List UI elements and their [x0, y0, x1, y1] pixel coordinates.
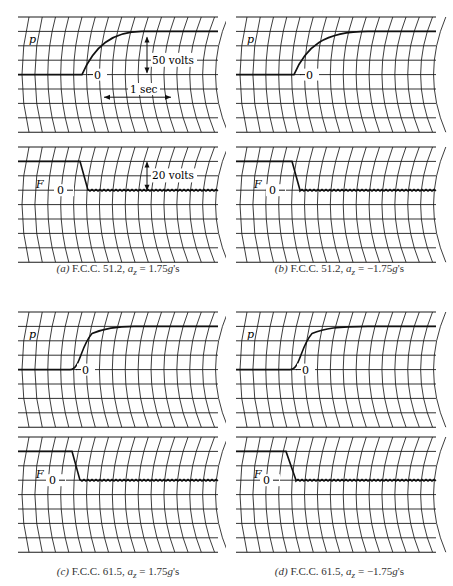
- panel-b: p0 F0 (b) F.C.C. 51.2, az = −1.75g's: [226, 0, 453, 290]
- panel-a-p-graph: p050 volts1 sec: [0, 8, 226, 148]
- scale-label-20-volts: 20 volts: [152, 169, 194, 181]
- scale-label-50-volts: 50 volts: [152, 54, 194, 66]
- caption-value: = −1.75: [355, 262, 392, 274]
- panel-b-p-graph: p0: [226, 8, 453, 148]
- panel-a: p050 volts1 sec F020 volts (a) F.C.C. 51…: [0, 0, 226, 290]
- caption-letter: (b): [275, 262, 288, 274]
- caption-unit: 's: [173, 262, 179, 274]
- time-scale-label: 1 sec: [130, 83, 158, 95]
- caption-value: = 1.75: [137, 262, 168, 274]
- panel-c-f-graph: F0: [0, 428, 226, 563]
- panel-c-p-graph: p0: [0, 303, 226, 438]
- trace-label-p: p: [247, 33, 254, 46]
- caption-value: = −1.75: [355, 565, 392, 577]
- trace-label-f: F: [253, 178, 262, 191]
- zero-label: 0: [94, 69, 101, 82]
- caption-text: F.C.C. 61.5,: [72, 565, 128, 577]
- trace-label-p: p: [247, 328, 254, 341]
- caption-value: = 1.75: [136, 565, 167, 577]
- caption-unit: 's: [398, 262, 404, 274]
- caption-letter: (d): [275, 565, 288, 577]
- caption-letter: (a): [56, 262, 69, 274]
- caption-unit: 's: [173, 565, 179, 577]
- panel-b-f-graph: F0: [226, 138, 453, 268]
- caption-a: (a) F.C.C. 51.2, az = 1.75g's: [0, 262, 236, 277]
- zero-label: 0: [57, 184, 64, 197]
- trace-label-p: p: [29, 328, 36, 341]
- panel-d-f-graph: F0: [226, 428, 453, 563]
- caption-d: (d) F.C.C. 61.5, az = −1.75g's: [226, 565, 453, 580]
- trace-label-p: p: [29, 33, 36, 46]
- panel-a-f-graph: F020 volts: [0, 138, 226, 268]
- caption-c: (c) F.C.C. 61.5, az = 1.75g's: [0, 565, 236, 580]
- zero-label: 0: [82, 364, 89, 377]
- caption-text: F.C.C. 61.5,: [290, 565, 346, 577]
- panel-c: p0 F0 (c) F.C.C. 61.5, az = 1.75g's: [0, 295, 226, 586]
- zero-label: 0: [302, 364, 309, 377]
- trace-label-f: F: [35, 468, 44, 481]
- zero-label: 0: [269, 184, 276, 197]
- trace-label-f: F: [35, 178, 44, 191]
- caption-b: (b) F.C.C. 51.2, az = −1.75g's: [226, 262, 453, 277]
- zero-label: 0: [49, 474, 56, 487]
- zero-label: 0: [263, 474, 270, 487]
- caption-letter: (c): [57, 565, 69, 577]
- panel-d-p-graph: p0: [226, 303, 453, 438]
- caption-unit: 's: [398, 565, 404, 577]
- zero-label: 0: [306, 69, 313, 82]
- panel-d: p0 F0 (d) F.C.C. 61.5, az = −1.75g's: [226, 295, 453, 586]
- caption-text: F.C.C. 51.2,: [72, 262, 128, 274]
- caption-text: F.C.C. 51.2,: [290, 262, 346, 274]
